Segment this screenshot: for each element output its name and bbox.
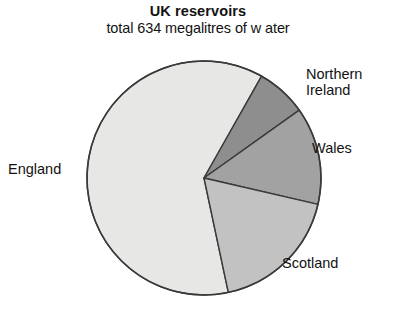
slice-label-scotland: Scotland <box>282 256 338 272</box>
slice-label-england: England <box>8 162 61 178</box>
slice-label-wales: Wales <box>312 141 352 157</box>
slice-label-northern-ireland: Northern Ireland <box>306 66 362 98</box>
slice-label-northern-ireland-line1: Northern <box>306 66 362 82</box>
slice-label-northern-ireland-line2: Ireland <box>306 82 362 98</box>
pie-chart-figure: UK reservoirs total 634 megalitres of w … <box>0 0 396 309</box>
